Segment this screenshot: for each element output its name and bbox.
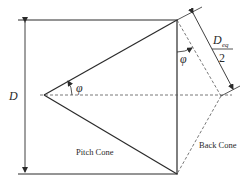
back-cone-label: Back Cone — [199, 140, 237, 150]
deq-numerator: D — [212, 33, 222, 47]
angle-label-right: φ — [180, 52, 187, 66]
deq-subscript: eq — [222, 41, 229, 49]
bevel-gear-cone-diagram: D φ φ D eq 2 Pitch Cone Back Cone — [0, 0, 252, 188]
pitch-cone-upper-side — [44, 20, 177, 95]
deq-extension-bottom — [221, 86, 240, 96]
back-cone-lower-dashed — [177, 96, 221, 174]
diameter-label: D — [8, 89, 18, 103]
pitch-cone-label: Pitch Cone — [76, 147, 114, 157]
deq-denominator: 2 — [219, 51, 225, 65]
deq-half-label: D eq 2 — [212, 33, 233, 65]
angle-label-left: φ — [76, 81, 83, 95]
pitch-cone-lower-side — [44, 95, 177, 174]
deq-extension-top — [177, 7, 202, 20]
angle-arc-left — [68, 81, 72, 95]
deq-dimension-line — [193, 13, 233, 89]
